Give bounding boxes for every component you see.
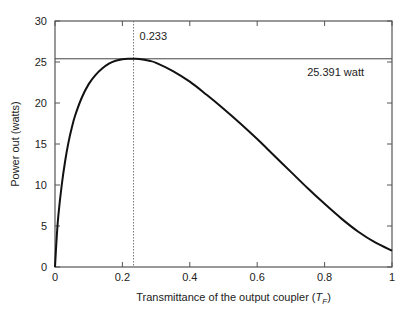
- plot-frame: [55, 21, 392, 267]
- x-tick-label: 0.8: [317, 271, 332, 283]
- x-tick-label: 0.2: [115, 271, 130, 283]
- optimum-x-annotation: 0.233: [140, 30, 168, 42]
- x-axis-label: Transmittance of the output coupler (TF): [136, 291, 331, 306]
- y-tick-label: 5: [41, 220, 47, 232]
- y-axis-label: Power out (watts): [9, 101, 21, 187]
- y-tick-label: 20: [35, 97, 47, 109]
- y-tick-label: 25: [35, 56, 47, 68]
- power-vs-transmittance-chart: 00.20.40.60.81051015202530 0.23325.391 w…: [0, 0, 410, 321]
- x-tick-label: 0: [52, 271, 58, 283]
- y-tick-label: 0: [41, 261, 47, 273]
- y-tick-label: 30: [35, 15, 47, 27]
- y-tick-label: 15: [35, 138, 47, 150]
- power-curve: [55, 59, 392, 267]
- y-tick-label: 10: [35, 179, 47, 191]
- x-tick-label: 0.6: [250, 271, 265, 283]
- max-power-annotation: 25.391 watt: [307, 66, 364, 78]
- x-tick-label: 1: [389, 271, 395, 283]
- x-tick-label: 0.4: [182, 271, 197, 283]
